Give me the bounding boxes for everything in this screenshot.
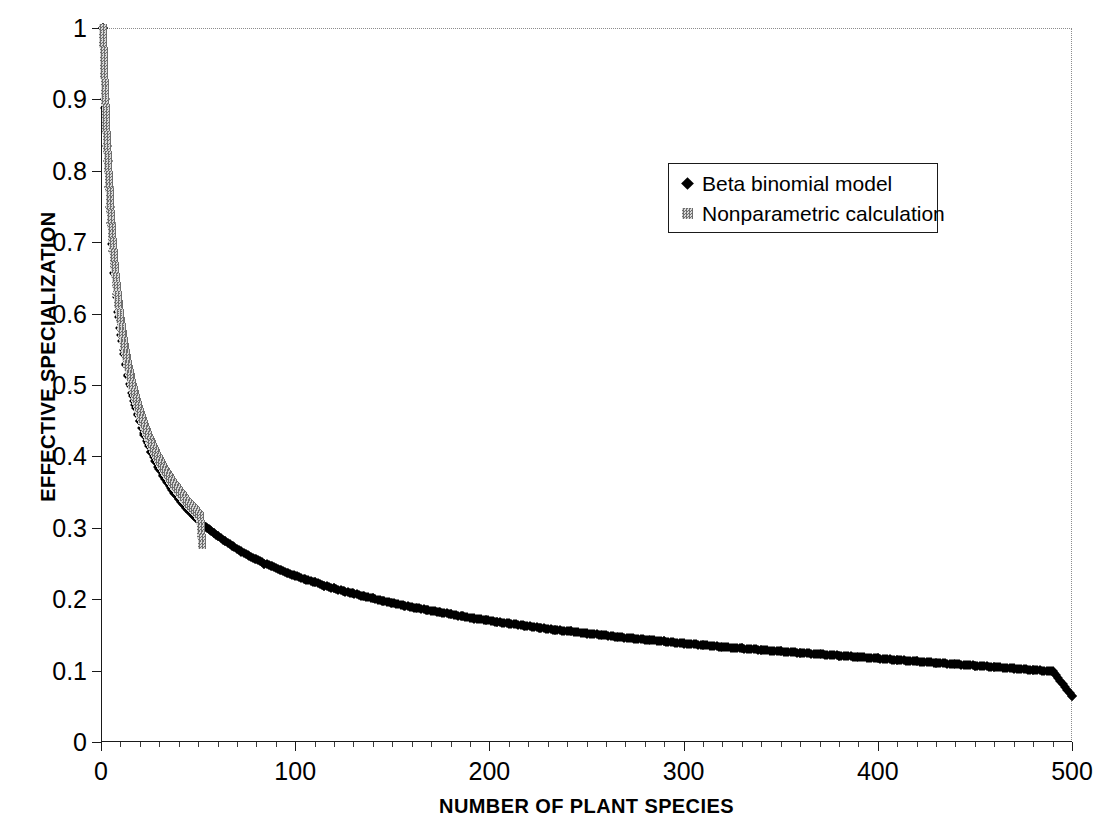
x-minor-tick <box>120 742 121 747</box>
square-marker-icon <box>682 208 693 219</box>
x-minor-tick <box>975 742 976 747</box>
x-minor-tick <box>276 742 277 747</box>
x-minor-tick <box>800 742 801 747</box>
data-point <box>103 134 111 142</box>
x-minor-tick <box>625 742 626 747</box>
x-tick <box>878 742 879 751</box>
legend-label: Nonparametric calculation <box>702 203 945 224</box>
x-minor-tick <box>742 742 743 747</box>
x-minor-tick <box>431 742 432 747</box>
x-minor-tick <box>722 742 723 747</box>
x-minor-tick <box>548 742 549 747</box>
x-minor-tick <box>1033 742 1034 747</box>
data-point <box>111 262 119 270</box>
x-tick <box>101 742 102 751</box>
data-point <box>113 282 121 290</box>
y-tick <box>92 171 101 172</box>
x-minor-tick <box>218 742 219 747</box>
plot-frame-right <box>1071 28 1072 742</box>
x-tick <box>1072 742 1073 751</box>
data-point <box>128 380 136 388</box>
x-axis-title: NUMBER OF PLANT SPECIES <box>101 795 1072 818</box>
x-minor-tick <box>936 742 937 747</box>
x-minor-tick <box>392 742 393 747</box>
x-minor-tick <box>373 742 374 747</box>
x-minor-tick <box>645 742 646 747</box>
x-minor-tick <box>917 742 918 747</box>
chart-legend: Beta binomial model Nonparametric calcul… <box>668 163 938 233</box>
data-point <box>99 24 107 32</box>
y-tick <box>92 742 101 743</box>
y-tick <box>92 671 101 672</box>
x-tick <box>295 742 296 751</box>
data-point <box>196 512 204 520</box>
data-point <box>126 372 134 380</box>
data-point <box>100 63 108 71</box>
data-point <box>124 362 132 370</box>
x-minor-tick <box>567 742 568 747</box>
chart-figure: 00.10.20.30.40.50.60.70.80.91 0100200300… <box>0 0 1116 839</box>
data-point <box>100 47 108 55</box>
y-tick <box>92 599 101 600</box>
x-minor-tick <box>703 742 704 747</box>
x-minor-tick <box>451 742 452 747</box>
x-minor-tick <box>140 742 141 747</box>
x-minor-tick <box>315 742 316 747</box>
y-tick-label: 0 <box>73 730 87 755</box>
diamond-marker-icon <box>681 177 694 190</box>
x-minor-tick <box>820 742 821 747</box>
x-minor-tick <box>781 742 782 747</box>
legend-item-nonparametric-calculation: Nonparametric calculation <box>682 203 937 224</box>
x-minor-tick <box>761 742 762 747</box>
plot-frame-top <box>101 28 1072 29</box>
x-tick-label: 100 <box>274 759 316 784</box>
y-axis-title: EFFECTIVE SPECIALIZATION <box>37 77 60 637</box>
data-point <box>99 40 107 48</box>
x-minor-tick <box>353 742 354 747</box>
data-point <box>101 79 109 87</box>
x-tick <box>684 742 685 751</box>
x-minor-tick <box>1014 742 1015 747</box>
data-point <box>109 238 117 246</box>
y-tick <box>92 242 101 243</box>
x-tick-label: 400 <box>857 759 899 784</box>
x-minor-tick <box>198 742 199 747</box>
y-tick-label: 1 <box>73 16 87 41</box>
x-minor-tick <box>334 742 335 747</box>
data-point <box>107 210 115 218</box>
legend-label: Beta binomial model <box>702 173 892 194</box>
x-minor-tick <box>179 742 180 747</box>
x-minor-tick <box>897 742 898 747</box>
x-minor-tick <box>994 742 995 747</box>
y-tick <box>92 456 101 457</box>
x-tick <box>489 742 490 751</box>
x-minor-tick <box>256 742 257 747</box>
data-point <box>100 55 108 63</box>
x-minor-tick <box>528 742 529 747</box>
x-minor-tick <box>606 742 607 747</box>
x-tick-label: 0 <box>94 759 108 784</box>
x-tick-label: 300 <box>663 759 705 784</box>
plot-area: 00.10.20.30.40.50.60.70.80.91 0100200300… <box>101 28 1072 742</box>
y-tick <box>92 314 101 315</box>
data-point <box>122 352 130 360</box>
y-tick <box>92 385 101 386</box>
x-minor-tick <box>470 742 471 747</box>
data-point <box>120 341 128 349</box>
data-point <box>116 315 124 323</box>
data-point <box>198 541 206 549</box>
x-minor-tick <box>1053 742 1054 747</box>
data-point <box>118 329 126 337</box>
x-minor-tick <box>955 742 956 747</box>
data-point <box>99 32 107 40</box>
y-tick-label: 0.1 <box>52 658 87 683</box>
legend-item-beta-binomial-model: Beta binomial model <box>682 173 937 194</box>
x-minor-tick <box>664 742 665 747</box>
x-minor-tick <box>587 742 588 747</box>
data-point <box>114 300 122 308</box>
x-minor-tick <box>412 742 413 747</box>
x-minor-tick <box>509 742 510 747</box>
x-minor-tick <box>159 742 160 747</box>
y-tick <box>92 528 101 529</box>
x-minor-tick <box>237 742 238 747</box>
